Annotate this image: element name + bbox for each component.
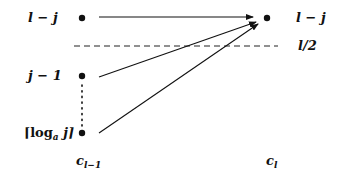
column-label-right-sub: l bbox=[274, 160, 277, 170]
label-left-log-a-j: ⌈loga j⌉ bbox=[24, 126, 74, 142]
edge-arrow-bottom bbox=[99, 24, 258, 133]
edge-arrow-middle bbox=[99, 22, 256, 77]
column-label-left: cl−1 bbox=[76, 154, 101, 170]
column-label-right: cl bbox=[266, 154, 277, 170]
column-label-left-base: c bbox=[76, 153, 84, 168]
label-threshold: l/2 bbox=[298, 39, 317, 52]
diagram-canvas bbox=[0, 0, 337, 177]
label-right-l-minus-j: l − j bbox=[296, 11, 326, 24]
label-left-l-minus-j: l − j bbox=[28, 11, 58, 24]
node-left-j-minus-1 bbox=[79, 73, 85, 79]
node-left-l-minus-j bbox=[79, 15, 85, 21]
label-log-suffix: j⌉ bbox=[59, 125, 74, 140]
node-right-l-minus-j bbox=[264, 15, 270, 21]
column-label-left-sub: l−1 bbox=[84, 160, 101, 170]
node-left-log-a-j bbox=[79, 130, 85, 136]
label-log-prefix: ⌈log bbox=[24, 125, 53, 140]
label-left-j-minus-1: j − 1 bbox=[28, 69, 62, 82]
column-label-right-base: c bbox=[266, 153, 274, 168]
